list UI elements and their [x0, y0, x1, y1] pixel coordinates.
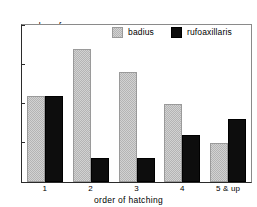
bar-badius-3: [119, 72, 137, 182]
bar-badius-1: [27, 96, 45, 182]
bar-rufoaxillaris-2: [91, 158, 109, 182]
bar-badius-5up: [210, 143, 228, 182]
x-axis-tick-label: 2: [68, 184, 114, 193]
bar-badius-2: [73, 49, 91, 182]
x-axis-tick-label: 5 & up: [205, 184, 251, 193]
bar-group: [73, 25, 109, 182]
x-axis-label: order of hatching: [0, 195, 257, 205]
bar-rufoaxillaris-5up: [228, 119, 246, 182]
bar-group: [119, 25, 155, 182]
legend-item-rufoaxillaris: rufoaxillaris: [171, 27, 232, 38]
bar-chart-figure: number of nestlings 05101520 12345 & up …: [0, 0, 257, 207]
badius-swatch: [112, 27, 123, 38]
x-axis-tick-label: 1: [22, 184, 68, 193]
bar-group: [27, 25, 63, 182]
rufoaxillaris-swatch: [171, 27, 182, 38]
legend-item-label: badius: [128, 27, 154, 37]
bar-group: [164, 25, 200, 182]
chart-legend: badiusrufoaxillaris: [112, 25, 232, 39]
x-axis-tick-label: 4: [159, 184, 205, 193]
legend-item-badius: badius: [112, 27, 154, 38]
bar-badius-4: [164, 104, 182, 183]
x-axis-tick-label: 3: [114, 184, 160, 193]
bar-group-container: [22, 25, 251, 182]
bar-rufoaxillaris-3: [137, 158, 155, 182]
bar-rufoaxillaris-1: [45, 96, 63, 182]
bar-group: [210, 25, 246, 182]
bar-rufoaxillaris-4: [182, 135, 200, 182]
legend-item-label: rufoaxillaris: [187, 27, 232, 37]
